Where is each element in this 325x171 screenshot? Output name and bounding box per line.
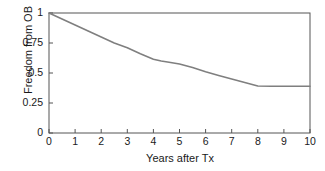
y-axis-label: Freedom from OB <box>22 0 34 130</box>
x-tick-label: 1 <box>63 135 87 147</box>
x-tick-label: 6 <box>194 135 218 147</box>
y-tick-label: 0.25 <box>0 96 43 108</box>
y-tick-label: 0.5 <box>0 66 43 78</box>
y-tick-label: 0.75 <box>0 36 43 48</box>
x-axis-label: Years after Tx <box>49 152 311 164</box>
y-tick-label: 0 <box>0 126 43 138</box>
chart-figure: Freedom from OB Years after Tx 012345678… <box>0 0 325 171</box>
x-tick-label: 9 <box>272 135 296 147</box>
x-tick-label: 4 <box>141 135 165 147</box>
x-tick-label: 8 <box>246 135 270 147</box>
x-tick-label: 2 <box>89 135 113 147</box>
y-tick-label: 1 <box>0 6 43 18</box>
x-tick-label: 3 <box>115 135 139 147</box>
x-tick-label: 10 <box>298 135 322 147</box>
x-tick-label: 7 <box>220 135 244 147</box>
x-tick-label: 5 <box>168 135 192 147</box>
